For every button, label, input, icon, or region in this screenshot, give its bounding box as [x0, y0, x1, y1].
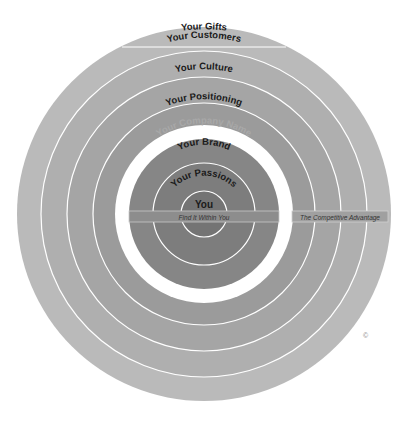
band-outer-label: The Competitive Advantage — [300, 214, 380, 222]
band-inner-label: Find It Within You — [179, 214, 230, 221]
copyright-icon: © — [363, 332, 369, 339]
label-you: You — [195, 199, 213, 210]
concentric-ring-diagram: Your Gifts Your Customers Your Culture Y… — [0, 0, 408, 425]
